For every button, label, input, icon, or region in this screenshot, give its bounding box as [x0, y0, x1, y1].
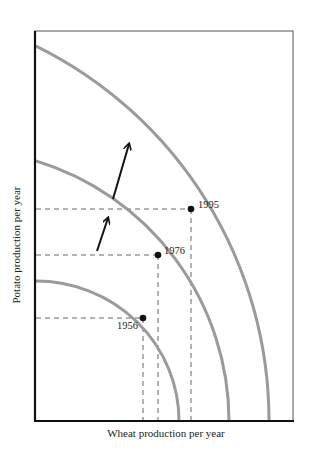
label-1956: 1956	[117, 320, 138, 331]
shift-arrow-2	[113, 144, 129, 199]
point-1956	[140, 315, 147, 322]
ppf-chart	[0, 0, 313, 458]
point-1995	[188, 206, 195, 213]
shift-arrow-1	[97, 218, 108, 251]
label-1995: 1995	[198, 199, 219, 210]
dashed-guides	[36, 209, 191, 421]
label-1976: 1976	[164, 245, 185, 256]
x-axis-label: Wheat production per year	[107, 427, 225, 439]
point-1976	[155, 252, 162, 259]
y-axis-label: Potato production per year	[10, 187, 22, 304]
plot-frame	[35, 31, 293, 421]
